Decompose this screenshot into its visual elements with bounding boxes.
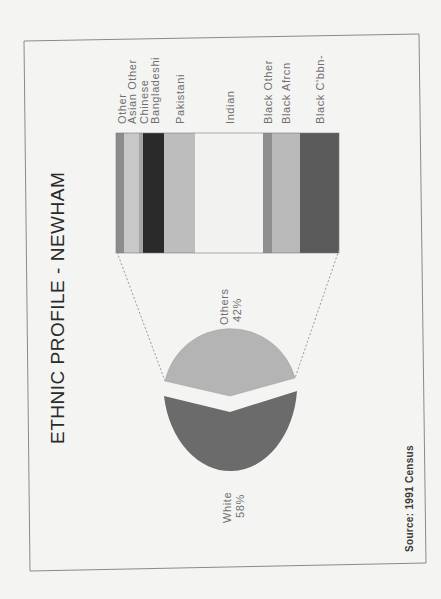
bar-segment-black-afrcn	[272, 133, 300, 253]
chart-page: ETHNIC PROFILE - NEWHAM Source: 1991 Cen…	[0, 0, 441, 599]
bar-label: Black Other	[263, 60, 274, 124]
bar-segment-black-other	[263, 133, 272, 253]
bar-segment-black-c-bbn	[300, 133, 339, 253]
bar-segment-indian	[195, 133, 263, 253]
pie-slice-white	[164, 391, 297, 471]
bar-label: Indian	[225, 90, 236, 124]
pie-slice-others	[165, 329, 295, 396]
bar-segment-chinese	[139, 133, 143, 253]
connector-line-left	[117, 252, 165, 381]
bar-segment-asian-other	[124, 133, 139, 253]
bar-label: Black Afrcn	[281, 62, 292, 124]
bar-label: Black C'bbn-	[315, 55, 326, 124]
bar-segment-bangladeshi	[143, 133, 164, 253]
pie-pct-others: 42%	[232, 298, 243, 322]
bar-segment-other	[116, 133, 124, 253]
source-note: Source: 1991 Census	[405, 445, 415, 552]
bar-label: Pakistani	[175, 74, 186, 124]
pie-pct-white: 58%	[235, 494, 246, 518]
stacked-bar	[116, 133, 339, 253]
pie-label-white: White	[222, 492, 233, 523]
bar-label: Bangladeshi	[150, 57, 161, 124]
bar-label: Asian Other	[127, 59, 138, 124]
bar-segment-pakistani	[164, 133, 195, 253]
chart-title: ETHNIC PROFILE - NEWHAM	[48, 172, 67, 444]
connector-line-right	[295, 250, 339, 378]
pie-label-others: Others	[219, 288, 230, 325]
